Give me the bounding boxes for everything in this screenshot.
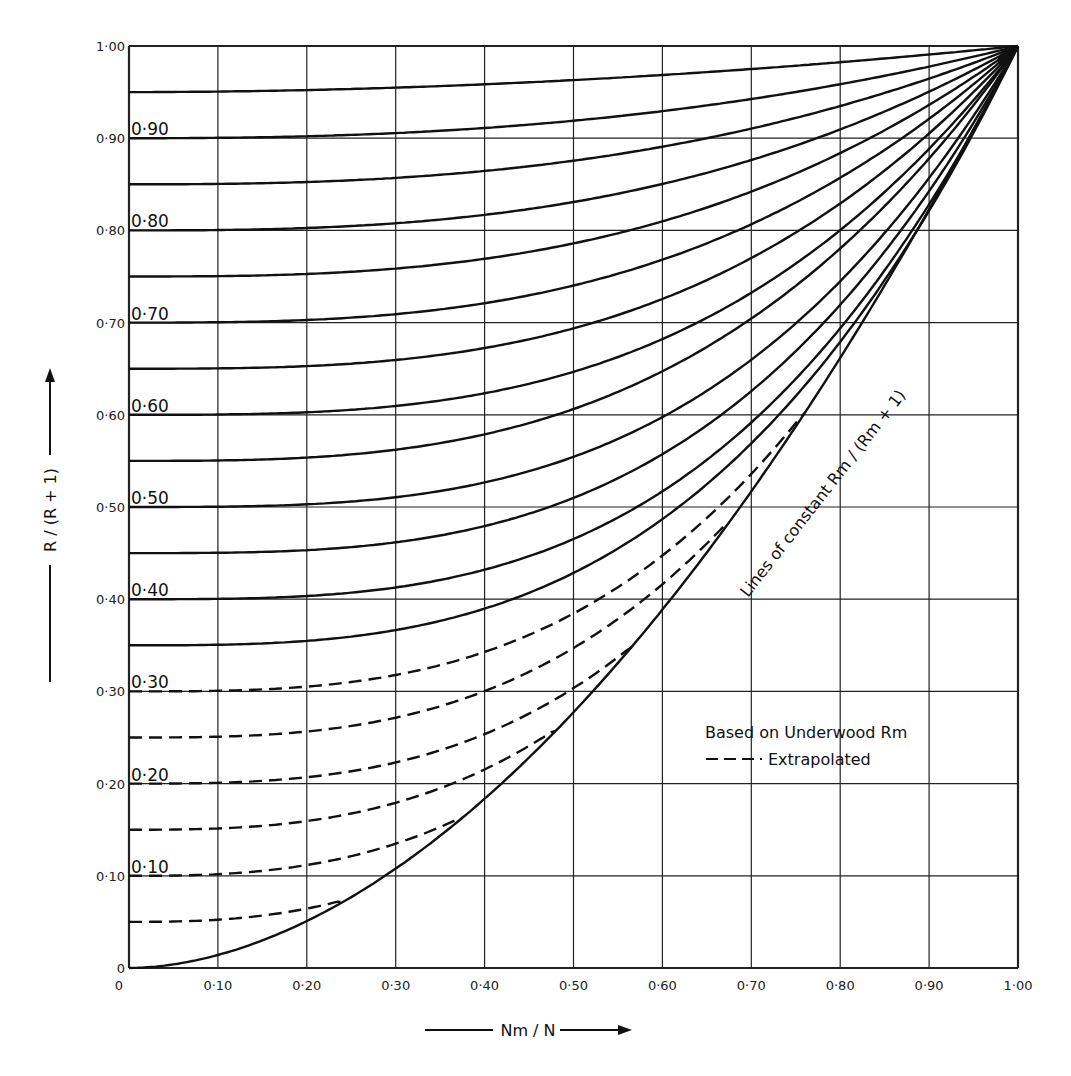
up-arrow-icon: [45, 368, 55, 382]
y-tick-label: 0·80: [96, 223, 125, 238]
y-axis-label: R / (R + 1): [41, 468, 60, 552]
curve-label: 0·30: [131, 672, 169, 692]
x-tick-label: 0·90: [915, 978, 944, 993]
curve-label: 0·50: [131, 488, 169, 508]
x-axis-label: Nm / N: [500, 1021, 555, 1040]
curve-0-15: [129, 731, 556, 830]
y-tick-label: 0·60: [96, 408, 125, 423]
y-tick-label: 0: [117, 961, 125, 976]
convergence-point: [998, 53, 1012, 67]
curve-label: 0·40: [131, 580, 169, 600]
x-tick-label: 0·10: [203, 978, 232, 993]
x-tick-label: 0·80: [826, 978, 855, 993]
legend-entry-dashed: Extrapolated: [768, 750, 871, 769]
curve-0-10: [129, 818, 462, 876]
curve-label: 0·60: [131, 396, 169, 416]
x-tick-label: 1·00: [1004, 978, 1033, 993]
x-tick-label: 0·60: [648, 978, 677, 993]
curve-labels: 0·900·800·700·600·500·400·300·200·10: [131, 119, 175, 877]
curve-label: 0·90: [131, 119, 169, 139]
x-tick-label: 0·40: [470, 978, 499, 993]
curve-0-25: [129, 522, 729, 737]
curve-0-20: [129, 647, 631, 783]
x-tick-label: 0·20: [292, 978, 321, 993]
curve-label: 0·10: [131, 857, 169, 877]
chart: 00·100·200·300·400·500·600·700·800·901·0…: [0, 0, 1071, 1076]
y-tick-label: 1·00: [96, 39, 125, 54]
right-arrow-icon: [618, 1025, 632, 1035]
y-tick-label: 0·90: [96, 131, 125, 146]
curve-label: 0·80: [131, 211, 169, 231]
y-axis-ticks: 00·100·200·300·400·500·600·700·800·901·0…: [96, 39, 125, 976]
annotation-lines-of-constant: Lines of constant Rm / (Rm + 1): [736, 386, 909, 600]
legend: Based on Underwood Rm Extrapolated: [705, 723, 907, 769]
x-tick-label: 0·30: [381, 978, 410, 993]
x-tick-label: 0·70: [737, 978, 766, 993]
curve-label: 0·20: [131, 765, 169, 785]
y-tick-label: 0·70: [96, 316, 125, 331]
curve-label: 0·70: [131, 304, 169, 324]
y-tick-label: 0·30: [96, 684, 125, 699]
x-tick-label: 0·50: [559, 978, 588, 993]
legend-entry-solid: Based on Underwood Rm: [705, 723, 907, 742]
x-tick-label: 0: [115, 978, 123, 993]
x-axis-ticks: 00·100·200·300·400·500·600·700·800·901·0…: [115, 978, 1033, 993]
y-axis-title: R / (R + 1): [41, 368, 60, 682]
y-tick-label: 0·40: [96, 592, 125, 607]
x-axis-title: Nm / N: [425, 1021, 632, 1040]
y-tick-label: 0·20: [96, 777, 125, 792]
y-tick-label: 0·10: [96, 869, 125, 884]
y-tick-label: 0·50: [96, 500, 125, 515]
